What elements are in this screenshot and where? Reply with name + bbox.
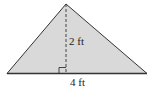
triangle-diagram: 2 ft 4 ft bbox=[0, 0, 148, 89]
height-label: 2 ft bbox=[69, 35, 84, 47]
base-label: 4 ft bbox=[70, 76, 85, 88]
